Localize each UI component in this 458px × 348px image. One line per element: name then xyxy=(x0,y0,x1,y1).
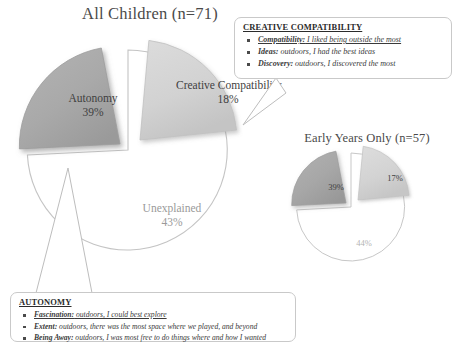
callout-autonomy-item-being-away: Being Away: outdoors, I was most free to… xyxy=(18,332,288,344)
callout-autonomy-term-fascination: Fascination: xyxy=(34,310,74,319)
callout-creative-text-compatibility: I liked being outside the most xyxy=(305,35,401,44)
callout-creative-item-ideas: Ideas: outdoors, I had the best ideas xyxy=(242,46,444,58)
callout-autonomy-text-being-away: outdoors, I was most free to do things w… xyxy=(73,333,266,342)
callout-creative-item-discovery: Discovery: outdoors, I discovered the mo… xyxy=(242,58,444,70)
figure-canvas: All Children (n=71) xyxy=(0,0,458,348)
callout-creative-item-compatibility: Compatibility: I liked being outside the… xyxy=(242,34,444,46)
callout-autonomy: AUTONOMY Fascination: outdoors, I could … xyxy=(10,292,296,342)
callout-autonomy-heading: AUTONOMY xyxy=(19,297,288,307)
callout-creative-term-compatibility: Compatibility: xyxy=(258,35,305,44)
callout-creative-compatibility: CREATIVE COMPATIBILITY Compatibility: I … xyxy=(234,17,452,79)
leader-pointer-creative xyxy=(243,78,286,125)
callout-autonomy-term-extent: Extent: xyxy=(34,322,57,331)
callout-creative-list: Compatibility: I liked being outside the… xyxy=(242,34,444,70)
callout-autonomy-text-fascination: outdoors, I could best explore xyxy=(74,310,167,319)
callout-creative-text-ideas: outdoors, I had the best ideas xyxy=(278,47,375,56)
callout-creative-term-discovery: Discovery: xyxy=(258,59,293,68)
callout-autonomy-term-being-away: Being Away: xyxy=(34,333,73,342)
callout-autonomy-item-fascination: Fascination: outdoors, I could best expl… xyxy=(18,309,288,321)
callout-creative-heading: CREATIVE COMPATIBILITY xyxy=(243,22,444,32)
callout-autonomy-item-extent: Extent: outdoors, there was the most spa… xyxy=(18,321,288,333)
callout-autonomy-list: Fascination: outdoors, I could best expl… xyxy=(18,309,288,344)
callout-creative-term-ideas: Ideas: xyxy=(258,47,278,56)
leader-pointer-autonomy xyxy=(36,168,92,293)
callout-autonomy-text-extent: outdoors, there was the most space where… xyxy=(57,322,257,331)
callout-creative-text-discovery: outdoors, I discovered the most xyxy=(293,59,395,68)
